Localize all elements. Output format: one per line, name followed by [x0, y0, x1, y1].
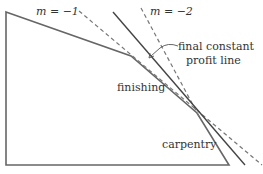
slope-minus-2-label: m = −2 [150, 5, 193, 18]
linear-programming-diagram: m = −1 m = −2 final constant profit line… [0, 0, 263, 174]
carpentry-constraint-label: carpentry [162, 138, 217, 151]
annotation-text-line2: profit line [186, 54, 241, 67]
annotation-arrow [151, 44, 178, 56]
annotation-text-line1: final constant [178, 40, 255, 53]
finishing-constraint-label: finishing [117, 81, 165, 94]
slope-minus-1-label: m = −1 [36, 5, 79, 18]
